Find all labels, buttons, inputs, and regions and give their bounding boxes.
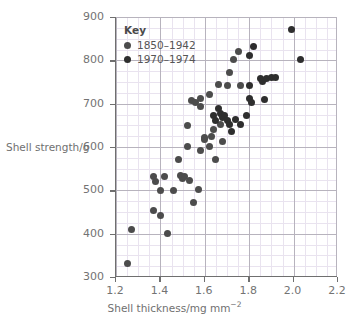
legend-marker-icon	[124, 42, 131, 49]
gridline-major-horizontal	[116, 147, 337, 148]
data-point	[246, 52, 253, 59]
gridline-minor-horizontal	[116, 190, 337, 191]
x-axis-title-exponent: −2	[230, 300, 241, 309]
data-point	[228, 128, 235, 135]
data-point	[246, 82, 253, 89]
data-point	[157, 187, 164, 194]
gridline-major-vertical	[294, 17, 295, 276]
gridline-minor-horizontal	[116, 245, 337, 246]
data-point	[226, 69, 233, 76]
legend-item-label: 1970–1974	[137, 53, 196, 65]
data-point	[250, 43, 257, 50]
data-point	[152, 178, 159, 185]
data-point	[237, 121, 244, 128]
data-point	[208, 133, 215, 140]
gridline-minor-horizontal	[116, 266, 337, 267]
gridline-minor-vertical	[238, 17, 239, 276]
data-point	[184, 122, 191, 129]
gridline-minor-horizontal	[116, 234, 337, 235]
y-axis-tick	[110, 190, 115, 191]
data-point	[128, 226, 135, 233]
data-point	[184, 143, 191, 150]
x-axis-tick-label: 2.2	[317, 284, 349, 297]
data-point	[197, 95, 204, 102]
y-axis-tick-label: 700	[64, 97, 104, 110]
legend-item: 1970–1974	[124, 52, 216, 66]
x-axis-tick	[159, 277, 160, 282]
x-axis-tick	[293, 277, 294, 282]
gridline-major-horizontal	[116, 234, 337, 235]
data-point	[237, 82, 244, 89]
legend: Key 1850–19421970–1974	[124, 24, 216, 66]
x-axis-tick-label: 1.2	[95, 284, 135, 297]
data-point	[215, 81, 222, 88]
plot-frame-right	[336, 17, 337, 276]
data-point	[261, 96, 268, 103]
data-point	[210, 126, 217, 133]
gridline-minor-vertical	[216, 17, 217, 276]
gridline-minor-horizontal	[116, 147, 337, 148]
gridline-minor-horizontal	[116, 104, 337, 105]
data-point	[248, 99, 255, 106]
data-point	[124, 260, 131, 267]
data-point	[170, 187, 177, 194]
gridline-minor-horizontal	[116, 255, 337, 256]
data-point	[272, 74, 279, 81]
y-axis-tick-label: 500	[64, 183, 104, 196]
gridline-minor-vertical	[271, 17, 272, 276]
data-point	[219, 138, 226, 145]
data-point	[195, 186, 202, 193]
data-point	[206, 91, 213, 98]
legend-marker-icon	[124, 56, 131, 63]
x-axis-tick-label: 1.4	[139, 284, 179, 297]
data-point	[212, 156, 219, 163]
gridline-minor-horizontal	[116, 223, 337, 224]
data-point	[157, 212, 164, 219]
data-point	[224, 82, 231, 89]
x-axis-tick-label: 2.0	[273, 284, 313, 297]
x-axis-tick	[337, 277, 338, 282]
gridline-minor-vertical	[316, 17, 317, 276]
gridline-minor-vertical	[116, 17, 117, 276]
x-axis-tick	[115, 277, 116, 282]
data-point	[197, 147, 204, 154]
y-axis-tick-label: 800	[64, 53, 104, 66]
legend-items: 1850–19421970–1974	[124, 38, 216, 66]
gridline-minor-vertical	[283, 17, 284, 276]
data-point	[206, 143, 213, 150]
x-axis-title: Shell thickness/mg mm−2	[0, 300, 349, 314]
gridline-major-horizontal	[116, 104, 337, 105]
data-point	[297, 56, 304, 63]
gridline-minor-horizontal	[116, 212, 337, 213]
data-point	[161, 173, 168, 180]
data-point	[288, 26, 295, 33]
y-axis-tick	[110, 277, 115, 278]
y-axis-tick-label: 400	[64, 227, 104, 240]
y-axis-tick-label: 900	[64, 10, 104, 23]
gridline-minor-vertical	[294, 17, 295, 276]
data-point	[186, 177, 193, 184]
y-axis-title: Shell strength/g	[6, 141, 89, 153]
x-axis-tick	[248, 277, 249, 282]
gridline-minor-horizontal	[116, 158, 337, 159]
legend-item: 1850–1942	[124, 38, 216, 52]
gridline-major-vertical	[116, 17, 117, 276]
data-point	[190, 199, 197, 206]
x-axis-tick-label: 1.6	[184, 284, 224, 297]
gridline-minor-horizontal	[116, 136, 337, 137]
data-point	[175, 156, 182, 163]
x-axis-tick-label: 1.8	[228, 284, 268, 297]
data-point	[230, 56, 237, 63]
gridline-minor-vertical	[227, 17, 228, 276]
gridline-minor-vertical	[305, 17, 306, 276]
y-axis-tick	[110, 147, 115, 148]
gridline-minor-vertical	[260, 17, 261, 276]
gridline-minor-horizontal	[116, 180, 337, 181]
plot-frame-top	[116, 17, 337, 18]
gridline-major-horizontal	[116, 190, 337, 191]
x-axis-tick	[204, 277, 205, 282]
gridline-minor-horizontal	[116, 201, 337, 202]
data-point	[197, 103, 204, 110]
data-point	[150, 207, 157, 214]
x-axis-title-text: Shell thickness/mg mm	[108, 302, 231, 314]
